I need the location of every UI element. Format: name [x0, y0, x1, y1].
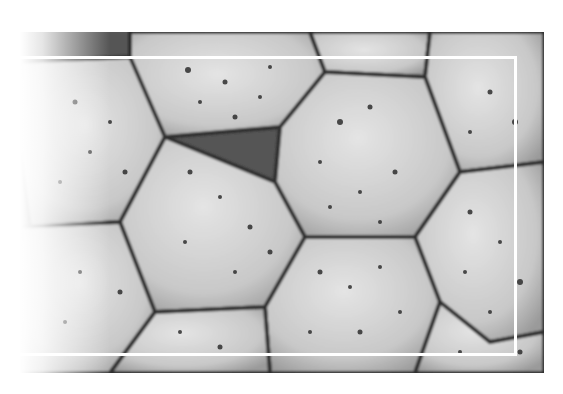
white-frame-overlay [16, 56, 517, 356]
